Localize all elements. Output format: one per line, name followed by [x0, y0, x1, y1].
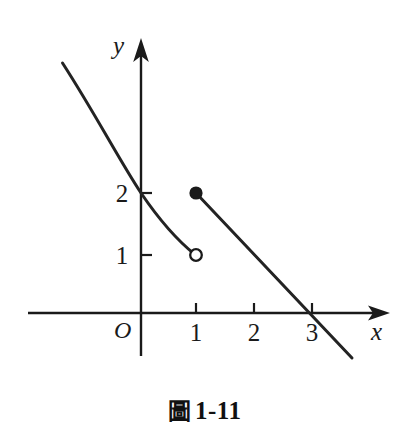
x-tick-label-3: 3: [303, 320, 321, 345]
plot-canvas: [0, 0, 409, 441]
y-axis-label: y: [113, 33, 124, 58]
x-tick-label-2: 2: [245, 320, 263, 345]
closed-point-marker: [189, 186, 202, 199]
figure-caption: 圖1-11: [0, 392, 409, 426]
curve-branch: [63, 63, 196, 255]
figure-caption-number: 1-11: [195, 397, 241, 424]
x-axis-label: x: [371, 319, 382, 344]
x-tick-label-1: 1: [187, 320, 205, 345]
figure-caption-prefix: 圖: [168, 398, 192, 424]
line-branch: [196, 193, 352, 358]
open-point-marker: [190, 249, 202, 261]
y-tick-label-2: 2: [113, 181, 131, 206]
y-tick-label-1: 1: [113, 243, 131, 268]
figure-container: y x O 2 1 1 2 3 圖1-11: [0, 0, 409, 441]
origin-label: O: [114, 318, 131, 342]
